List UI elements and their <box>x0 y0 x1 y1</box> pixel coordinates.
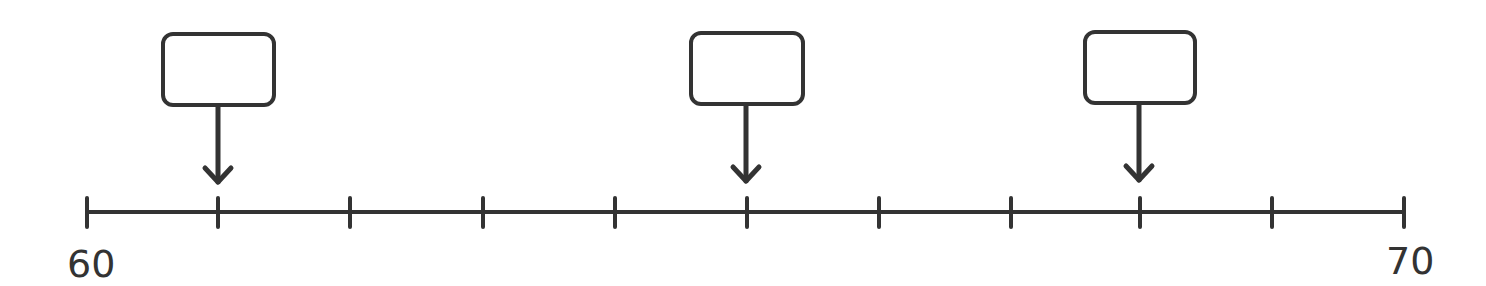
number-line <box>87 198 1404 227</box>
arrow-down-icon <box>733 105 759 181</box>
answer-box-1[interactable] <box>161 32 276 107</box>
arrow-down-icon <box>205 106 231 182</box>
end-label: 70 <box>1386 242 1434 280</box>
arrow-down-icon <box>1126 104 1152 180</box>
answer-box-2[interactable] <box>689 31 805 106</box>
marker-arrows <box>205 104 1152 182</box>
start-label: 60 <box>67 245 115 283</box>
answer-box-3[interactable] <box>1083 30 1197 105</box>
